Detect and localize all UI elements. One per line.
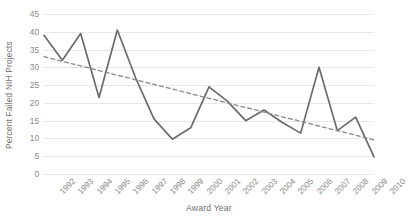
x-axis-title: Award Year [44, 203, 374, 213]
x-axis-tick-label: 1995 [112, 176, 132, 196]
plot-series-svg [44, 14, 374, 174]
x-axis-tick-label: 1999 [186, 176, 206, 196]
y-axis-tick-label: 40 [30, 27, 39, 37]
y-axis-tick-label: 30 [30, 62, 39, 72]
x-axis-tick-label: 1996 [131, 176, 151, 196]
y-axis-tick-label: 20 [30, 98, 39, 108]
x-axis-tick-label: 2009 [369, 176, 389, 196]
y-axis-tick-label: 5 [34, 151, 39, 161]
x-axis-tick-label: 1997 [149, 176, 169, 196]
y-axis-title-label: Percent Failed NIH Projects [4, 41, 14, 149]
x-axis-tick-label: 1994 [94, 176, 114, 196]
y-axis-tick-labels: 051015202530354045 [18, 14, 42, 174]
x-axis-tick-label: 2010 [387, 176, 407, 196]
gridline [44, 174, 374, 175]
x-axis-tick-label: 1992 [57, 176, 77, 196]
x-axis-tick-labels: 1992199319941995199619971998199920002001… [44, 176, 374, 202]
x-axis-tick-label: 2005 [296, 176, 316, 196]
x-axis-tick-label: 2000 [204, 176, 224, 196]
y-axis-tick-label: 25 [30, 80, 39, 90]
x-axis-tick-label: 2002 [241, 176, 261, 196]
y-axis-tick-label: 35 [30, 45, 39, 55]
y-axis-tick-label: 10 [30, 133, 39, 143]
x-axis-tick-label: 2006 [314, 176, 334, 196]
x-axis-tick-label: 2001 [222, 176, 242, 196]
data-series-path [44, 30, 374, 157]
y-axis-title: Percent Failed NIH Projects [0, 0, 18, 190]
x-axis-tick-label: 1993 [76, 176, 96, 196]
x-axis-tick-label: 2008 [351, 176, 371, 196]
y-axis-tick-label: 45 [30, 9, 39, 19]
x-axis-tick-label: 2004 [277, 176, 297, 196]
y-axis-tick-label: 0 [34, 169, 39, 179]
x-axis-tick-label: 1998 [167, 176, 187, 196]
plot-area [44, 14, 374, 174]
x-axis-tick-label: 2007 [332, 176, 352, 196]
x-axis-tick-label: 2003 [259, 176, 279, 196]
trendline-path [44, 57, 374, 140]
y-axis-tick-label: 15 [30, 116, 39, 126]
